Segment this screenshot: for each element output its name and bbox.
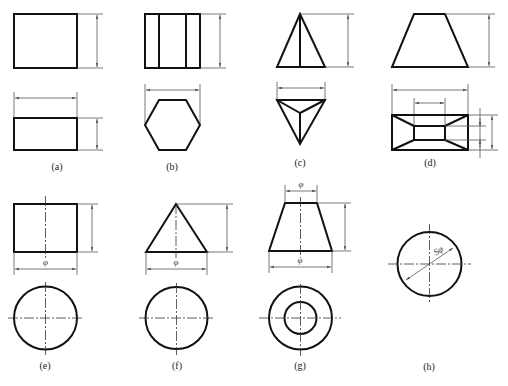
panel-f: φ (f): [139, 204, 233, 372]
panel-label-c: (c): [294, 157, 305, 169]
panel-d: (d): [392, 14, 498, 169]
panel-h: Sφ (h): [388, 224, 471, 373]
top-view-inner-rect: [414, 126, 445, 140]
panel-label-f: (f): [172, 360, 182, 372]
panel-label-e: (e): [39, 360, 50, 372]
panel-label-b: (b): [166, 161, 178, 173]
panel-e: φ (e): [8, 196, 98, 372]
phi-symbol-top: φ: [299, 179, 304, 189]
phi-symbol: φ: [174, 257, 179, 267]
panel-a: (a): [14, 14, 103, 173]
front-view-rect: [14, 14, 77, 68]
front-view-rect: [145, 14, 200, 68]
top-view-rect: [14, 118, 77, 150]
panel-label-a: (a): [51, 161, 62, 173]
phi-symbol: φ: [43, 257, 48, 267]
panel-b: (b): [145, 14, 226, 173]
sphere-phi-symbol: Sφ: [432, 244, 445, 258]
hexagon-top-view: [145, 100, 200, 150]
front-view-trapezoid: [392, 14, 468, 67]
panel-label-d: (d): [424, 157, 436, 169]
front-view-triangle: [146, 204, 207, 252]
phi-symbol-bottom: φ: [298, 255, 303, 265]
panel-g: φ φ (g): [259, 179, 351, 372]
panel-c: (c): [277, 14, 354, 169]
technical-drawing: (a) (b) (c): [0, 0, 508, 386]
panel-label-g: (g): [294, 360, 306, 372]
panel-label-h: (h): [423, 361, 435, 373]
